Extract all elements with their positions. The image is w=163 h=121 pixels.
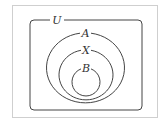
set-b-label: B — [81, 62, 90, 75]
universe-label: U — [52, 14, 62, 27]
venn-diagram: U A X B — [0, 0, 163, 121]
set-a-label: A — [81, 27, 90, 40]
set-x-label: X — [81, 44, 91, 57]
